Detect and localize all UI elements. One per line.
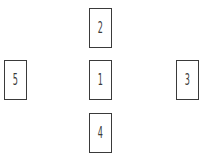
card-1: 1: [89, 60, 112, 100]
card-label: 1: [98, 73, 103, 88]
card-label: 4: [98, 126, 103, 141]
card-label: 3: [185, 73, 190, 88]
card-2: 2: [89, 8, 112, 48]
card-label: 5: [13, 73, 18, 88]
card-5: 5: [4, 60, 27, 100]
card-label: 2: [98, 21, 103, 36]
card-4: 4: [89, 113, 112, 153]
card-3: 3: [176, 60, 199, 100]
